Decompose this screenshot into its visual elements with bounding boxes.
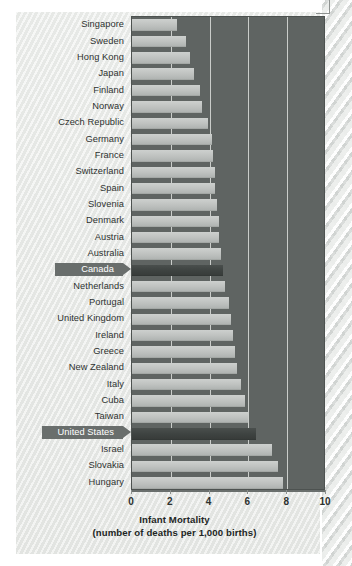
y-label-hungary: Hungary xyxy=(89,477,125,487)
axis-title-line2: (number of deaths per 1,000 births) xyxy=(22,527,327,540)
bar-row xyxy=(132,265,324,276)
bar-norway xyxy=(132,101,202,112)
bar-australia xyxy=(132,248,221,259)
y-label-sweden: Sweden xyxy=(90,36,124,46)
y-label-czech-republic: Czech Republic xyxy=(58,117,124,127)
bar-greece xyxy=(132,346,235,357)
y-label-israel: Israel xyxy=(101,444,124,454)
bar-row xyxy=(132,52,324,63)
bar-row xyxy=(132,68,324,79)
bar-row xyxy=(132,412,324,423)
bar-row xyxy=(132,346,324,357)
y-label-ireland: Ireland xyxy=(95,330,124,340)
y-label-greece: Greece xyxy=(93,346,124,356)
x-tick-0 xyxy=(131,490,132,494)
y-label-canada: Canada xyxy=(55,263,123,276)
bar-portugal xyxy=(132,297,229,308)
corner-rule-horizontal xyxy=(316,13,330,14)
bar-singapore xyxy=(132,19,177,30)
bar-taiwan xyxy=(132,412,248,423)
chart-page: SingaporeSwedenHong KongJapanFinlandNorw… xyxy=(0,0,352,566)
y-label-france: France xyxy=(95,150,124,160)
y-label-netherlands: Netherlands xyxy=(73,281,124,291)
bar-italy xyxy=(132,379,241,390)
bar-denmark xyxy=(132,216,219,227)
bar-sweden xyxy=(132,36,186,47)
bar-row xyxy=(132,134,324,145)
bar-row xyxy=(132,85,324,96)
y-label-cuba: Cuba xyxy=(102,395,124,405)
bar-row xyxy=(132,444,324,455)
y-axis-labels: SingaporeSwedenHong KongJapanFinlandNorw… xyxy=(22,16,131,490)
y-label-japan: Japan xyxy=(98,68,124,78)
x-axis-line xyxy=(131,490,325,492)
y-label-germany: Germany xyxy=(85,134,124,144)
bar-row xyxy=(132,36,324,47)
x-tick-6 xyxy=(247,490,248,494)
y-label-slovakia: Slovakia xyxy=(88,460,124,470)
bar-united-kingdom xyxy=(132,314,231,325)
bar-row xyxy=(132,428,324,439)
y-label-united-kingdom: United Kingdom xyxy=(57,313,124,323)
y-label-denmark: Denmark xyxy=(86,215,124,225)
bar-row xyxy=(132,461,324,472)
bar-row xyxy=(132,363,324,374)
y-label-finland: Finland xyxy=(93,85,124,95)
bar-cuba xyxy=(132,395,245,406)
y-label-austria: Austria xyxy=(95,232,124,242)
x-tick-label-0: 0 xyxy=(119,496,143,508)
bar-row xyxy=(132,477,324,488)
bar-row xyxy=(132,183,324,194)
y-label-spain: Spain xyxy=(100,183,124,193)
bar-row xyxy=(132,248,324,259)
y-label-taiwan: Taiwan xyxy=(95,411,124,421)
bar-germany xyxy=(132,134,212,145)
bar-hong-kong xyxy=(132,52,190,63)
bar-row xyxy=(132,395,324,406)
x-tick-label-8: 8 xyxy=(274,496,298,508)
x-tick-label-4: 4 xyxy=(197,496,221,508)
axis-title-line1: Infant Mortality xyxy=(139,514,209,525)
plot-area xyxy=(131,16,325,490)
x-tick-10 xyxy=(325,490,326,494)
bar-row xyxy=(132,330,324,341)
axis-title: Infant Mortality (number of deaths per 1… xyxy=(22,514,327,539)
y-label-italy: Italy xyxy=(107,379,124,389)
y-label-slovenia: Slovenia xyxy=(88,199,124,209)
bar-united-states xyxy=(132,428,256,439)
bar-netherlands xyxy=(132,281,225,292)
y-label-switzerland: Switzerland xyxy=(75,166,124,176)
bar-row xyxy=(132,379,324,390)
bar-chart: SingaporeSwedenHong KongJapanFinlandNorw… xyxy=(22,16,327,556)
bar-hungary xyxy=(132,477,283,488)
bar-row xyxy=(132,150,324,161)
x-tick-label-2: 2 xyxy=(158,496,182,508)
bar-switzerland xyxy=(132,167,215,178)
bar-row xyxy=(132,314,324,325)
y-label-norway: Norway xyxy=(92,101,124,111)
y-label-united-states: United States xyxy=(42,426,123,439)
bar-slovakia xyxy=(132,461,278,472)
bar-row xyxy=(132,281,324,292)
bar-czech-republic xyxy=(132,118,208,129)
y-label-portugal: Portugal xyxy=(89,297,124,307)
bar-series xyxy=(132,17,324,489)
bar-slovenia xyxy=(132,199,217,210)
y-label-hong-kong: Hong Kong xyxy=(77,52,124,62)
bar-row xyxy=(132,232,324,243)
bar-canada xyxy=(132,265,223,276)
bar-row xyxy=(132,118,324,129)
bar-row xyxy=(132,101,324,112)
corner-rule-vertical xyxy=(329,0,330,14)
bar-israel xyxy=(132,444,272,455)
x-tick-8 xyxy=(286,490,287,494)
x-tick-4 xyxy=(209,490,210,494)
bar-ireland xyxy=(132,330,233,341)
y-label-australia: Australia xyxy=(87,248,124,258)
x-tick-2 xyxy=(170,490,171,494)
x-tick-label-6: 6 xyxy=(235,496,259,508)
bar-austria xyxy=(132,232,219,243)
bar-row xyxy=(132,167,324,178)
y-label-singapore: Singapore xyxy=(81,19,124,29)
x-tick-label-10: 10 xyxy=(313,496,337,508)
